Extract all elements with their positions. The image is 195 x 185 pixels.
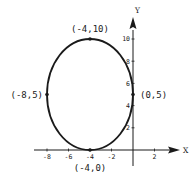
x-tick-label: 2: [153, 153, 157, 161]
point-label: (-4,10): [71, 24, 109, 34]
y-axis-arrow-icon: [130, 17, 137, 29]
vertex-point: [88, 148, 92, 152]
ellipse-chart: -8-6-4-22246810 (-4,10)(-8,5)(0,5)(-4,0)…: [0, 0, 195, 185]
vertex-point: [45, 93, 49, 97]
y-axis-label: Y: [134, 6, 141, 15]
points-group: (-4,10)(-8,5)(0,5)(-4,0): [10, 24, 167, 173]
y-tick-label: 10: [122, 35, 130, 43]
x-tick-label: -4: [86, 153, 94, 161]
y-tick-label: 4: [126, 102, 130, 110]
vertex-point: [88, 37, 92, 41]
x-tick-label: -8: [43, 153, 51, 161]
ellipse-curve: [47, 39, 133, 150]
x-axis-label: X: [183, 146, 189, 155]
point-label: (-4,0): [74, 163, 107, 173]
x-tick-label: -6: [65, 153, 73, 161]
point-label: (-8,5): [10, 90, 43, 100]
x-tick-label: -2: [108, 153, 116, 161]
y-tick-label: 6: [126, 80, 130, 88]
vertex-point: [131, 93, 135, 97]
point-label: (0,5): [140, 90, 167, 100]
curve-group: [47, 39, 133, 150]
